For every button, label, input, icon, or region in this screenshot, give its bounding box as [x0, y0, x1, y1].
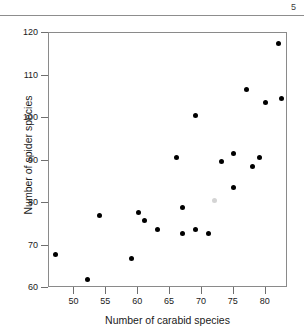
x-axis-tick-label: 80: [250, 297, 280, 306]
y-axis-tick: [41, 245, 48, 246]
page-header: 5: [0, 0, 304, 18]
data-point: [155, 227, 160, 232]
page-number: 5: [291, 1, 296, 13]
x-axis-label: Number of carabid species: [48, 314, 287, 326]
y-axis-tick: [41, 287, 48, 288]
data-point: [206, 231, 211, 236]
x-axis-tick: [137, 287, 138, 294]
scatter-plot-figure: Number of spider species Number of carab…: [0, 18, 304, 334]
y-axis-tick: [41, 160, 48, 161]
data-points-layer: [49, 33, 286, 286]
header-divider: [0, 15, 304, 16]
data-point: [257, 155, 262, 160]
x-axis-tick: [73, 287, 74, 294]
data-point: [231, 185, 236, 190]
data-point: [142, 218, 147, 223]
data-point: [193, 227, 198, 232]
x-axis-tick-label: 65: [154, 297, 184, 306]
data-point: [219, 159, 224, 164]
y-axis-tick: [41, 75, 48, 76]
x-axis-tick: [201, 287, 202, 294]
data-point: [250, 164, 255, 169]
data-point: [174, 155, 179, 160]
x-axis-tick: [233, 287, 234, 294]
x-axis-tick-label: 70: [186, 297, 216, 306]
data-point: [85, 277, 90, 282]
data-point: [136, 210, 141, 215]
data-point: [231, 151, 236, 156]
data-point: [244, 87, 249, 92]
y-axis-tick-label: 90: [8, 156, 38, 165]
y-axis-tick-label: 110: [8, 71, 38, 80]
data-point: [279, 96, 284, 101]
data-point: [129, 256, 134, 261]
plot-area: [48, 32, 287, 287]
y-axis-tick: [41, 32, 48, 33]
data-point: [180, 231, 185, 236]
x-axis-tick: [105, 287, 106, 294]
x-axis-tick-label: 75: [218, 297, 248, 306]
x-axis-tick: [265, 287, 266, 294]
data-point: [263, 100, 268, 105]
x-axis-tick-label: 50: [58, 297, 88, 306]
y-axis-tick-label: 80: [8, 198, 38, 207]
x-axis-tick: [169, 287, 170, 294]
data-point: [193, 113, 198, 118]
y-axis-tick-label: 60: [8, 283, 38, 292]
y-axis-tick: [41, 117, 48, 118]
y-axis-tick-label: 70: [8, 241, 38, 250]
data-point: [53, 252, 58, 257]
data-point: [180, 205, 185, 210]
y-axis-tick-label: 100: [8, 113, 38, 122]
data-point: [97, 213, 102, 218]
y-axis-tick: [41, 202, 48, 203]
data-point: [212, 198, 217, 203]
data-point: [276, 41, 281, 46]
y-axis-tick-label: 120: [8, 28, 38, 37]
x-axis-tick-label: 55: [90, 297, 120, 306]
x-axis-tick-label: 60: [122, 297, 152, 306]
